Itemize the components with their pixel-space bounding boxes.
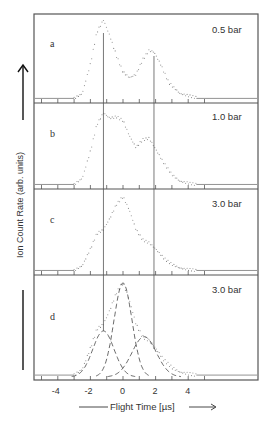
- pressure-label-c: 3.0 bar: [212, 198, 242, 209]
- pressure-label-b: 1.0 bar: [212, 111, 242, 122]
- pressure-label-a: 0.5 bar: [212, 24, 242, 35]
- x-tick-label: 0: [120, 386, 125, 396]
- x-tick-label: 4: [185, 386, 190, 396]
- panel-label-d: d: [50, 311, 55, 322]
- plot-frame: [34, 14, 258, 380]
- stacked-flight-time-chart: [0, 0, 269, 426]
- panel-label-c: c: [50, 214, 54, 225]
- panel-label-b: b: [50, 128, 55, 139]
- x-tick-label: 2: [153, 386, 158, 396]
- fit-curve: [96, 283, 149, 376]
- x-tick-label: -4: [52, 386, 60, 396]
- y-axis-label: Ion Count Rate (arb. units): [15, 135, 25, 275]
- panel-label-a: a: [50, 38, 54, 49]
- x-tick-label: -2: [84, 386, 92, 396]
- x-axis-label: Flight Time [µs]: [110, 401, 175, 412]
- pressure-label-d: 3.0 bar: [212, 284, 242, 295]
- fit-curve: [108, 337, 181, 377]
